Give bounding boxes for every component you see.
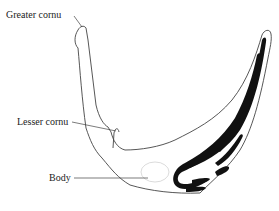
lesser-cornu-outline [113, 129, 119, 148]
hyoid-diagram: Greater cornu Lesser cornu Body [0, 0, 279, 211]
body-oval [141, 162, 169, 182]
dark-dash-2 [192, 178, 210, 184]
dark-band-1 [186, 38, 266, 168]
label-greater-cornu: Greater cornu [6, 10, 61, 20]
dark-band-2 [173, 53, 260, 189]
dark-dash-1 [215, 166, 229, 176]
lesser-cornu-leader [72, 122, 116, 131]
label-body: Body [49, 173, 71, 183]
greater-cornu-leader [74, 16, 82, 27]
label-lesser-cornu: Lesser cornu [17, 117, 68, 127]
hyoid-bone-drawing [0, 0, 279, 211]
left-greater-cornu-outline [78, 26, 175, 150]
